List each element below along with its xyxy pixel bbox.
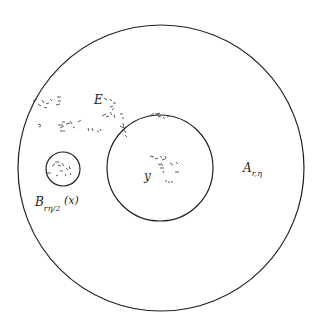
annulus-label-sub: r,η (252, 169, 262, 178)
center-y-label: y (143, 169, 151, 183)
ball-label: Brη/2 (34, 195, 60, 213)
annulus-label-main: A (242, 161, 252, 175)
ball-label-main: B (34, 195, 44, 209)
small-ball-circle (46, 152, 80, 186)
ball-label-sub: rη/2 (44, 204, 60, 213)
ball-label-arg: (x) (64, 194, 79, 207)
set-e-scatter (33, 97, 179, 182)
diagram-canvas: E y Ar,η Brη/2 (x) (0, 0, 315, 322)
annulus-label: Ar,η (242, 161, 262, 178)
set-e-label: E (93, 93, 103, 107)
